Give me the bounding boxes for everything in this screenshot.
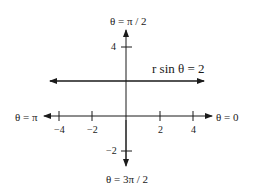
tick-label-x-2: 2 — [158, 124, 163, 135]
tick-label-x-neg2: −2 — [87, 124, 98, 135]
polar-diagram — [0, 0, 254, 190]
tick-label-x-neg4: −4 — [54, 124, 65, 135]
tick-label-y-neg2: −2 — [106, 145, 117, 156]
label-theta-pi: θ = π — [15, 111, 38, 123]
tick-label-y-4: 4 — [111, 41, 116, 52]
label-theta-pi-over-2: θ = π / 2 — [110, 15, 147, 27]
label-theta-0: θ = 0 — [216, 111, 238, 123]
equation-label: r sin θ = 2 — [152, 62, 205, 76]
tick-label-x-4: 4 — [191, 124, 196, 135]
label-theta-3pi-over-2: θ = 3π / 2 — [106, 173, 148, 185]
